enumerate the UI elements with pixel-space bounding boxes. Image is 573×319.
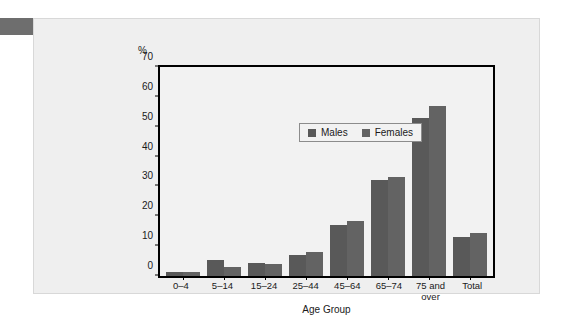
y-axis-tick-label: 70: [142, 51, 160, 62]
bar-group: [368, 67, 409, 276]
x-axis-tick-label-line: 75 and: [410, 280, 452, 291]
y-axis-tick-label: 60: [142, 80, 160, 91]
y-axis-tick-label: 30: [142, 170, 160, 181]
bar-females: [183, 272, 200, 276]
bar-males: [453, 237, 470, 276]
y-axis-tick-label: 40: [142, 140, 160, 151]
bar-group: [285, 67, 326, 276]
bar-females: [388, 177, 405, 276]
x-axis-title: Age Group: [158, 304, 495, 315]
legend-item-males: Males: [308, 127, 348, 138]
bar-group: [450, 67, 491, 276]
bar-females: [306, 252, 323, 276]
legend-label: Females: [375, 127, 413, 138]
bars-area: [160, 67, 493, 276]
bar-males: [289, 255, 306, 276]
plot-area: 010203040506070 MalesFemales: [158, 65, 495, 278]
corner-tab: [0, 18, 34, 35]
legend-swatch-icon: [308, 129, 316, 137]
chart-legend: MalesFemales: [299, 123, 422, 142]
x-axis-tick-label-line: 5–14: [202, 280, 244, 291]
y-axis-tick-label: 0: [147, 260, 160, 271]
legend-swatch-icon: [362, 129, 370, 137]
bar-group: [203, 67, 244, 276]
bar-group: [409, 67, 450, 276]
bar-males: [248, 263, 265, 276]
bar-females: [265, 264, 282, 276]
x-axis-tick-label-line: over: [410, 291, 452, 302]
y-axis-tick-label: 50: [142, 110, 160, 121]
bar-males: [207, 260, 224, 276]
x-axis-tick-label-line: 25–44: [285, 280, 327, 291]
y-axis-tick-label: 10: [142, 230, 160, 241]
bar-females: [347, 221, 364, 276]
bar-females: [429, 106, 446, 276]
x-axis-tick-label-line: 45–64: [327, 280, 369, 291]
bar-males: [371, 180, 388, 276]
x-axis-tick-label-line: 0–4: [160, 280, 202, 291]
legend-label: Males: [321, 127, 348, 138]
x-axis-tick-label-line: 15–24: [243, 280, 285, 291]
chart-panel: % 010203040506070 MalesFemales 0–45–1415…: [33, 18, 540, 294]
bar-group: [244, 67, 285, 276]
bar-group: [327, 67, 368, 276]
x-axis-tick-label-line: 65–74: [368, 280, 410, 291]
bar-females: [224, 267, 241, 276]
x-axis-tick-label-line: Total: [451, 280, 493, 291]
bar-males: [330, 225, 347, 276]
legend-item-females: Females: [362, 127, 413, 138]
bar-males: [166, 272, 183, 276]
bar-females: [470, 233, 487, 276]
bar-group: [162, 67, 203, 276]
y-axis-tick-label: 20: [142, 200, 160, 211]
